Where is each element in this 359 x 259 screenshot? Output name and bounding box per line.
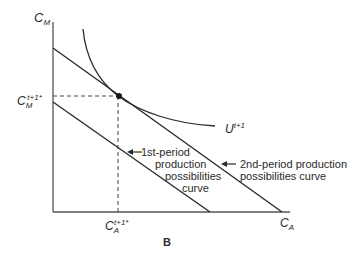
y-axis-label: CM	[34, 12, 50, 29]
second-period-ppc-label: 2nd-period production possibilities curv…	[240, 158, 347, 182]
x-optimum-main: C	[105, 219, 114, 233]
optimum-point	[116, 93, 122, 99]
first-period-ppc-label: 1st-period	[141, 146, 190, 158]
y-optimum-tick-label: CMt+1*	[17, 92, 42, 112]
first-period-ppc-label-rest: production possibilities curve	[151, 158, 233, 194]
y-axis-label-sub: M	[43, 18, 50, 27]
x-axis-label-sub: A	[289, 223, 294, 232]
panel-label: B	[163, 236, 171, 248]
first-period-label-line1: 1st-period	[141, 146, 190, 158]
y-optimum-sub: M	[26, 101, 33, 110]
first-period-arrow-icon	[127, 149, 142, 155]
x-optimum-tick-label: CAt+1*	[105, 217, 128, 237]
indifference-curve	[83, 29, 215, 126]
first-period-label-line3: possibilities	[151, 170, 233, 182]
y-optimum-sup: t+1*	[27, 93, 41, 102]
diagram-canvas	[0, 0, 359, 259]
second-period-label-line2: possibilities curve	[240, 170, 347, 182]
second-period-label-line1: 2nd-period production	[240, 158, 347, 170]
indifference-curve-label: Ut+1	[225, 120, 245, 135]
x-axis-label-main: C	[280, 216, 289, 230]
x-axis-label: CA	[280, 217, 294, 234]
indifference-label-sup: t+1	[234, 121, 245, 130]
y-optimum-main: C	[17, 94, 26, 108]
first-period-label-line4: curve	[151, 182, 233, 194]
x-optimum-sup: t+1*	[114, 218, 128, 227]
y-axis-label-main: C	[34, 10, 43, 25]
first-period-label-line2: production	[151, 158, 233, 170]
indifference-label-main: U	[225, 122, 234, 136]
x-optimum-sub: A	[114, 226, 119, 235]
